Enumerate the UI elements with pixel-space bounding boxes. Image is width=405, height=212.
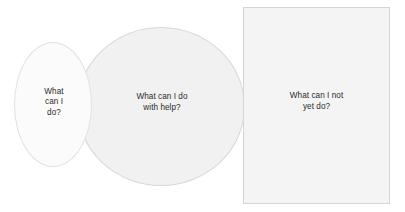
zone-with-help[interactable]: What can I do with help? (77, 27, 245, 186)
zone-not-yet-label: What can I not yet do? (290, 91, 344, 112)
zone-with-help-label: What can I do with help? (136, 92, 187, 113)
zone-can-do[interactable]: What can I do? (14, 42, 92, 167)
zone-not-yet[interactable]: What can I not yet do? (243, 7, 390, 204)
zone-can-do-label: What can I do? (44, 87, 63, 119)
diagram-canvas: What can I do with help? What can I do? … (0, 0, 405, 212)
